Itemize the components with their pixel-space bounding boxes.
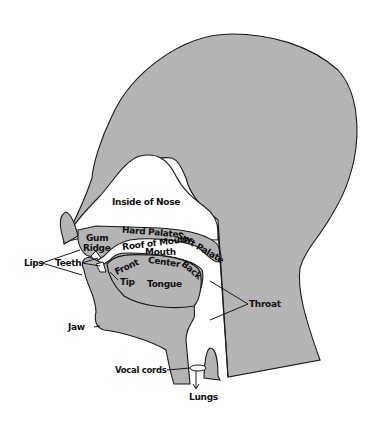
label-ridge: Ridge	[83, 243, 111, 253]
label-lungs: Lungs	[189, 392, 218, 402]
label-jaw: Jaw	[68, 322, 85, 332]
vocal-cords	[190, 365, 206, 371]
label-inside-of-nose: Inside of Nose	[112, 197, 180, 207]
label-gum: Gum	[86, 233, 108, 243]
label-tongue: Tongue	[147, 279, 182, 289]
label-throat: Throat	[249, 299, 281, 309]
label-lips: Lips	[24, 258, 43, 268]
head-cross-section	[0, 0, 378, 431]
label-teeth: Teeth	[55, 258, 81, 268]
label-tip: Tip	[120, 277, 135, 287]
epiglottis	[204, 348, 220, 380]
label-vocal-cords: Vocal cords	[115, 365, 167, 375]
speech-organs-diagram: Inside of Nose Hard Palate Soft Palate G…	[0, 0, 378, 431]
